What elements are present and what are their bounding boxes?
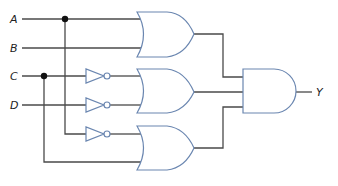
not-gate-2	[86, 98, 110, 112]
or-gate-3	[137, 126, 194, 170]
wire-c-branch	[44, 76, 142, 162]
wire-or3-out	[194, 107, 244, 148]
or-gate-1	[137, 12, 194, 57]
logic-circuit-diagram: A B C D	[0, 0, 338, 186]
input-label-a: A	[9, 13, 18, 26]
input-label-d: D	[10, 99, 18, 112]
and-gate	[243, 69, 296, 113]
not-gate-3	[86, 127, 110, 141]
junction-dot-c	[41, 73, 47, 79]
input-label-c: C	[10, 70, 18, 83]
or-gate-2	[137, 69, 194, 113]
junction-dot-a	[62, 16, 68, 22]
wire-or1-out	[194, 34, 244, 77]
input-label-b: B	[10, 42, 18, 55]
output-label-y: Y	[316, 86, 324, 99]
not-gate-1	[86, 69, 110, 83]
